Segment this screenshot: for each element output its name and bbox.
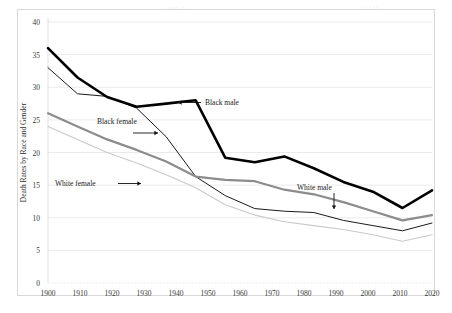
y-axis-title: Death Rates by Race and Gender	[19, 102, 28, 202]
svg-text:40: 40	[33, 18, 41, 27]
svg-text:2010: 2010	[393, 289, 408, 298]
series-annotations: Black maleBlack femaleWhite femaleWhite …	[55, 98, 336, 209]
svg-text:30: 30	[33, 83, 41, 92]
svg-text:10: 10	[33, 214, 41, 223]
x-tick-labels: 1900191019201930194019501960197019801990…	[41, 289, 440, 298]
svg-text:20: 20	[33, 149, 41, 158]
svg-text:White female: White female	[55, 179, 96, 188]
svg-text:2000: 2000	[361, 289, 376, 298]
y-tick-labels: 0510152025303540	[33, 18, 41, 288]
svg-text:Black male: Black male	[205, 98, 240, 107]
svg-text:Death Rates by Race and Gender: Death Rates by Race and Gender	[19, 102, 28, 202]
svg-text:2020: 2020	[425, 289, 440, 298]
svg-text:25: 25	[33, 116, 41, 125]
svg-text:White male: White male	[297, 183, 332, 192]
gridlines	[48, 22, 432, 283]
svg-text:35: 35	[33, 51, 41, 60]
svg-text:1940: 1940	[169, 289, 184, 298]
svg-text:1900: 1900	[41, 289, 56, 298]
svg-text:1950: 1950	[201, 289, 216, 298]
svg-text:1930: 1930	[137, 289, 152, 298]
svg-text:1970: 1970	[265, 289, 280, 298]
svg-text:1920: 1920	[105, 289, 120, 298]
line-chart: 0510152025303540 19001910192019301940195…	[0, 0, 452, 313]
svg-text:1960: 1960	[233, 289, 248, 298]
svg-text:1910: 1910	[73, 289, 88, 298]
svg-text:5: 5	[36, 246, 40, 255]
chart-screenshot: 1900.01 11111 0510152025303540 190019101…	[0, 0, 452, 313]
svg-text:Black female: Black female	[97, 117, 137, 126]
series-lines	[48, 48, 432, 241]
svg-text:1980: 1980	[297, 289, 312, 298]
svg-text:15: 15	[33, 181, 41, 190]
svg-text:0: 0	[36, 279, 40, 288]
svg-text:1990: 1990	[329, 289, 344, 298]
